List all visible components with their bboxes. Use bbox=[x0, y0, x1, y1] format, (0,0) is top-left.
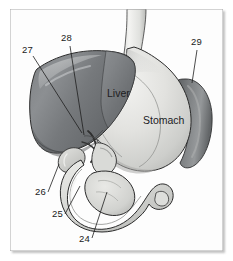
leader-24 bbox=[92, 192, 107, 238]
leader-26 bbox=[48, 164, 59, 192]
callout-26: 26 bbox=[35, 187, 46, 197]
leader-25 bbox=[65, 186, 80, 214]
callout-29: 29 bbox=[191, 37, 202, 47]
organ-label-stomach: Stomach bbox=[143, 115, 184, 126]
organ-label-liver: Liver bbox=[107, 88, 130, 99]
leader-27 bbox=[33, 56, 82, 133]
anatomy-figure: Liver Stomach 27 28 29 26 25 24 bbox=[0, 0, 233, 261]
leader-28 bbox=[70, 46, 84, 135]
leader-29 bbox=[192, 50, 197, 83]
callout-25: 25 bbox=[52, 209, 63, 219]
callout-28: 28 bbox=[61, 33, 72, 43]
callout-24: 24 bbox=[79, 234, 90, 244]
callout-27: 27 bbox=[22, 45, 33, 55]
